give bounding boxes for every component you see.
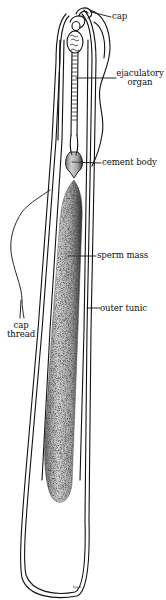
label-cement-body: cement body	[102, 158, 157, 167]
label-outer-tunic: outer tunic	[100, 304, 147, 313]
label-sperm-mass: sperm mass	[97, 251, 148, 260]
outer-loop	[90, 10, 110, 166]
label-cap-thread: cap thread	[4, 321, 38, 339]
label-ejaculatory-organ-line2: organ	[116, 78, 164, 87]
label-cap: cap	[112, 12, 127, 21]
cement-body-shape	[66, 152, 83, 178]
cap-leader	[91, 12, 111, 17]
diagram-drawing	[0, 0, 166, 600]
label-ejaculatory-organ: ejaculatory organ	[116, 69, 164, 87]
artist-signature: hjgw	[73, 585, 82, 589]
label-cap-thread-line2: thread	[4, 330, 38, 339]
sperm-mass-shape	[45, 180, 83, 502]
spermatophore-diagram: cap ejaculatory organ cement body sperm …	[0, 0, 166, 600]
